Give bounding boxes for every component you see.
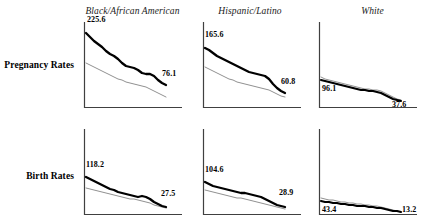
panel-pregnancy-hispanic: 165.6 60.8 (202, 22, 302, 110)
panel-birth-black: 118.2 27.5 (83, 129, 183, 217)
value-label-start: 165.6 (205, 30, 224, 39)
axis-lines (85, 129, 183, 215)
panel-plot-area (83, 129, 183, 217)
series-secondary-line (86, 188, 166, 208)
series-primary-line (86, 177, 166, 207)
series-primary-line (205, 48, 285, 93)
panel-birth-hispanic: 104.6 28.9 (202, 129, 302, 217)
column-header-black: Black/African American (60, 6, 205, 16)
series-primary-line (86, 33, 166, 85)
panel-birth-white: 43.4 13.2 (318, 129, 418, 217)
series-secondary-line (205, 67, 285, 97)
value-label-end: 27.5 (161, 189, 175, 198)
value-label-start: 118.2 (86, 160, 104, 169)
series-secondary-line (86, 63, 166, 97)
value-label-end: 60.8 (281, 77, 295, 86)
panel-pregnancy-black: 225.6 76.1 (83, 22, 183, 110)
value-label-end: 13.2 (402, 205, 416, 214)
axis-lines (320, 22, 418, 108)
value-label-start: 225.6 (87, 15, 106, 24)
value-label-start: 43.4 (322, 205, 336, 214)
axis-lines (320, 129, 418, 215)
column-header-white: White (320, 6, 425, 16)
series-primary-line (205, 182, 285, 207)
axis-lines (85, 22, 183, 108)
row-label-pregnancy-rates: Pregnancy Rates (0, 60, 74, 70)
column-header-hispanic: Hispanic/Latino (190, 6, 310, 16)
row-label-birth-rates: Birth Rates (0, 171, 74, 181)
panel-plot-area (318, 22, 418, 110)
figure-canvas: Black/African American Hispanic/Latino W… (0, 0, 435, 223)
value-label-end: 37.6 (392, 100, 406, 109)
panel-plot-area (318, 129, 418, 217)
value-label-start: 96.1 (322, 84, 336, 93)
value-label-start: 104.6 (205, 165, 224, 174)
series-spacer (87, 48, 167, 77)
panel-plot-area (83, 22, 183, 110)
panel-pregnancy-white: 96.1 37.6 (318, 22, 418, 110)
value-label-end: 76.1 (162, 69, 176, 78)
value-label-end: 28.9 (279, 188, 293, 197)
